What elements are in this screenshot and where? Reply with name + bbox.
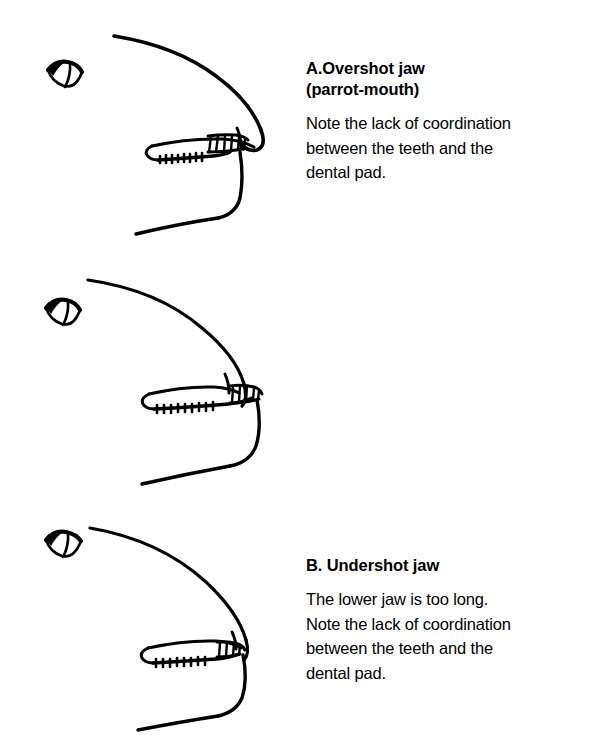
caption-panel-a: A.Overshot jaw (parrot-mouth) Note the l… bbox=[306, 58, 594, 185]
overshot-jaw-illustration bbox=[8, 0, 303, 250]
chin-line bbox=[218, 655, 245, 716]
panel-a-title: A.Overshot jaw (parrot-mouth) bbox=[306, 58, 594, 100]
head-profile-line bbox=[114, 36, 261, 130]
mouth-front-corner bbox=[141, 648, 153, 663]
head-profile-line bbox=[90, 528, 246, 640]
panel-a-body: Note the lack of coordination between th… bbox=[306, 111, 594, 185]
jaw-underline bbox=[136, 218, 218, 234]
upper-lip-line bbox=[149, 387, 239, 394]
normal-mouth-illustration bbox=[8, 490, 303, 735]
figure-panel-c: C. Normal mouth Note the coordination be… bbox=[0, 490, 615, 735]
figure-panel-a: A.Overshot jaw (parrot-mouth) Note the l… bbox=[0, 0, 615, 250]
eye-icon bbox=[46, 532, 81, 557]
overshot-jaw-svg bbox=[8, 0, 303, 250]
normal-mouth-svg bbox=[8, 490, 303, 735]
eye-icon bbox=[46, 300, 80, 325]
chin-line bbox=[218, 152, 242, 218]
undershot-jaw-svg bbox=[8, 250, 303, 490]
eye-icon bbox=[48, 62, 82, 87]
mouth-front-corner bbox=[146, 146, 158, 160]
chin-line bbox=[230, 400, 259, 466]
undershot-jaw-illustration bbox=[8, 250, 303, 490]
mouth-front-corner bbox=[142, 394, 154, 409]
head-profile-line bbox=[88, 280, 244, 384]
jaw-underline bbox=[142, 466, 230, 484]
figure-panel-b: B. Undershot jaw The lower jaw is too lo… bbox=[0, 250, 615, 490]
jaw-underline bbox=[138, 716, 218, 730]
